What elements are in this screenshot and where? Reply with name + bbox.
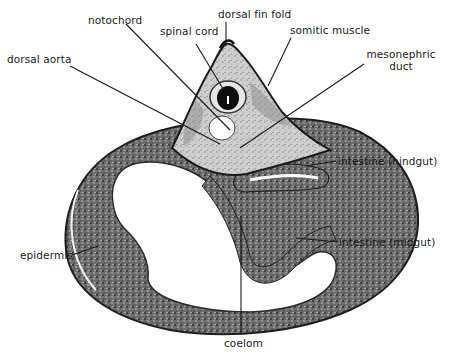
label-epidermis: epidermis: [20, 249, 73, 261]
label-intestine-midgut: intestine (midgut): [339, 236, 435, 248]
label-intestine-hindgut: intestine (hindgut): [338, 155, 438, 167]
leader-somitic-muscle: [268, 38, 291, 86]
label-mesonephric-line2: duct: [389, 60, 413, 72]
embryo-section-figure: notochord spinal cord dorsal fin fold so…: [0, 0, 462, 356]
label-coelom: coelom: [224, 337, 263, 349]
label-dorsal-aorta: dorsal aorta: [7, 53, 72, 65]
label-mesonephric-duct: mesonephric duct: [366, 48, 436, 72]
label-somitic-muscle: somitic muscle: [290, 24, 370, 36]
dorsal-trunk: [172, 41, 330, 175]
notochord-shape: [209, 116, 235, 140]
label-mesonephric-line1: mesonephric: [366, 48, 435, 60]
label-dorsal-fin-fold: dorsal fin fold: [218, 8, 291, 20]
label-notochord: notochord: [88, 14, 142, 26]
label-spinal-cord: spinal cord: [160, 25, 219, 37]
